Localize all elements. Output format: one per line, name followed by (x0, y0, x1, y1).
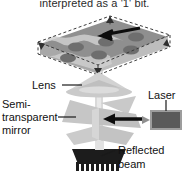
label-reflected-line1: Reflected (118, 144, 164, 157)
laser-source (142, 100, 182, 130)
label-semi-line2: transparent (2, 111, 58, 124)
label-lens: Lens (32, 79, 56, 92)
label-semi-line3: mirror (2, 124, 31, 137)
optical-pickup-diagram: interpreted as a '1' bit. (0, 0, 189, 181)
label-reflected-line2: beam (118, 158, 146, 171)
label-laser: Laser (148, 89, 176, 102)
label-semi-line1: Semi- (2, 98, 31, 111)
optical-disc-slab (38, 16, 170, 75)
